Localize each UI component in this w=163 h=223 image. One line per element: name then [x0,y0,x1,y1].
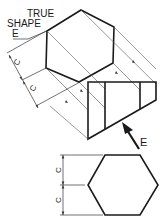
true-shape-label-line3: E [12,28,19,39]
true-shape-diagram: TRUE SHAPE E E [0,0,163,223]
top-dimension-label-lower: C [28,83,39,93]
top-dimension [7,31,80,108]
true-shape-hexagon [46,10,114,82]
bottom-dimension-label-upper: C [54,167,63,173]
view-direction-arrow [122,122,139,149]
top-dimension-label-upper: C [12,57,23,67]
end-view-hexagon [88,155,158,215]
view-direction-label: E [140,136,147,148]
bottom-dimension-label-lower: C [54,197,63,203]
bottom-dimension [60,155,103,215]
auxiliary-section-view [88,82,156,139]
